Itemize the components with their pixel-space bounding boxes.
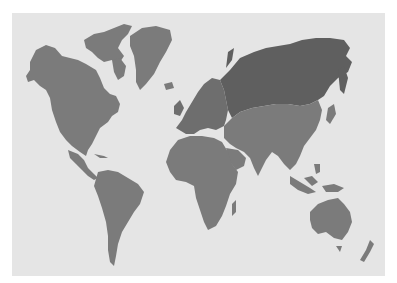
region-north-america bbox=[26, 45, 120, 156]
region-new-zealand bbox=[360, 240, 374, 262]
region-australia bbox=[310, 198, 352, 240]
region-caribbean bbox=[94, 154, 108, 158]
region-europe bbox=[176, 78, 228, 134]
region-uk bbox=[174, 100, 184, 116]
region-iceland bbox=[164, 82, 174, 90]
region-novaya-zemlya bbox=[226, 48, 234, 68]
region-madagascar bbox=[232, 200, 236, 216]
region-indonesia bbox=[290, 164, 344, 194]
world-map bbox=[0, 0, 397, 283]
region-south-america bbox=[94, 170, 144, 266]
region-japan bbox=[326, 104, 336, 124]
region-tasmania bbox=[336, 246, 342, 252]
region-central-america bbox=[68, 150, 98, 180]
region-arctic-islands bbox=[84, 24, 132, 62]
region-greenland bbox=[130, 26, 172, 90]
region-baffin bbox=[112, 58, 126, 80]
